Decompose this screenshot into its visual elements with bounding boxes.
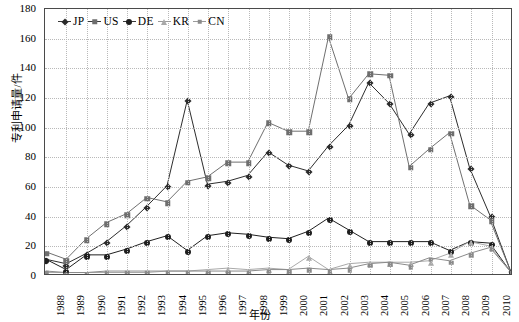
x-tick-label: 2005: [399, 276, 410, 316]
x-tick-label: 1992: [136, 276, 147, 316]
gridline-vertical: [147, 9, 148, 274]
y-tick-label: 100: [8, 122, 36, 132]
y-tick-label: 60: [8, 181, 36, 191]
x-tick-label: 1991: [116, 276, 127, 316]
legend-item-de[interactable]: DE: [123, 15, 154, 27]
gridline-vertical: [411, 9, 412, 274]
legend-item-us[interactable]: US: [88, 15, 118, 27]
gridline-horizontal: [45, 157, 511, 158]
legend-label-de: DE: [138, 15, 154, 27]
gridline-vertical: [168, 9, 169, 274]
y-tick-label: 20: [8, 240, 36, 250]
gridline-vertical: [188, 9, 189, 274]
legend-line-us: [88, 21, 101, 22]
gridline-vertical: [87, 9, 88, 274]
legend-marker-square-icon: [92, 19, 98, 25]
chart-legend: JPUSDEKRCN: [58, 15, 225, 27]
x-tick-label: 1990: [96, 276, 107, 316]
gridline-vertical: [289, 9, 290, 274]
data-point-us: [44, 251, 49, 257]
gridline-vertical: [127, 9, 128, 274]
y-tick-label: 180: [8, 3, 36, 13]
legend-item-kr[interactable]: KR: [158, 15, 190, 27]
gridline-horizontal: [45, 128, 511, 129]
gridline-horizontal: [45, 217, 511, 218]
legend-marker-triangle-icon: [161, 19, 167, 25]
gridline-vertical: [330, 9, 331, 274]
gridline-vertical: [431, 9, 432, 274]
gridline-vertical: [228, 9, 229, 274]
x-tick-label: 2007: [440, 276, 451, 316]
series-line-jp: [46, 83, 510, 270]
legend-item-jp[interactable]: JP: [58, 15, 84, 27]
x-tick-label: 1988: [55, 276, 66, 316]
legend-marker-circle-icon: [126, 19, 132, 25]
line-chart: 专利申请量/件 180160140120100806040200 JPUSDEK…: [0, 0, 519, 322]
gridline-vertical: [451, 9, 452, 274]
gridline-vertical: [370, 9, 371, 274]
y-tick-label: 80: [8, 151, 36, 161]
gridline-horizontal: [45, 187, 511, 188]
gridline-vertical: [249, 9, 250, 274]
gridline-vertical: [107, 9, 108, 274]
x-tick-label: 2010: [501, 276, 512, 316]
gridline-vertical: [390, 9, 391, 274]
legend-label-kr: KR: [173, 15, 190, 27]
y-tick-label: 40: [8, 211, 36, 221]
gridline-horizontal: [45, 39, 511, 40]
gridline-vertical: [208, 9, 209, 274]
plot-area: [44, 8, 512, 275]
legend-label-us: US: [103, 15, 118, 27]
y-tick-label: 160: [8, 33, 36, 43]
y-tick-label: 0: [8, 270, 36, 280]
legend-line-cn: [193, 21, 206, 22]
gridline-vertical: [309, 9, 310, 274]
legend-marker-small-square-icon: [198, 19, 203, 24]
gridline-horizontal: [45, 68, 511, 69]
series-line-de: [46, 218, 510, 271]
y-tick-label: 140: [8, 62, 36, 72]
legend-marker-diamond-icon: [61, 18, 68, 25]
data-point-cn: [44, 271, 48, 275]
legend-item-cn[interactable]: CN: [193, 15, 225, 27]
gridline-vertical: [492, 9, 493, 274]
x-tick-label: 1989: [75, 276, 86, 316]
x-tick-label: 2004: [379, 276, 390, 316]
series-lines-layer: [45, 9, 511, 274]
y-axis-tick-labels: 180160140120100806040200: [6, 0, 36, 322]
gridline-horizontal: [45, 246, 511, 247]
gridline-vertical: [66, 9, 67, 274]
legend-line-jp: [58, 21, 71, 22]
x-tick-label: 2009: [480, 276, 491, 316]
gridline-vertical: [269, 9, 270, 274]
data-point-cn: [510, 271, 512, 275]
gridline-horizontal: [45, 98, 511, 99]
legend-label-cn: CN: [208, 15, 225, 27]
legend-line-kr: [158, 21, 171, 22]
y-tick-label: 120: [8, 92, 36, 102]
gridline-vertical: [350, 9, 351, 274]
legend-line-de: [123, 21, 136, 22]
x-tick-label: 2008: [460, 276, 471, 316]
gridline-vertical: [471, 9, 472, 274]
x-axis-title: 年份: [150, 306, 370, 322]
x-tick-label: 2006: [420, 276, 431, 316]
legend-label-jp: JP: [73, 15, 84, 27]
